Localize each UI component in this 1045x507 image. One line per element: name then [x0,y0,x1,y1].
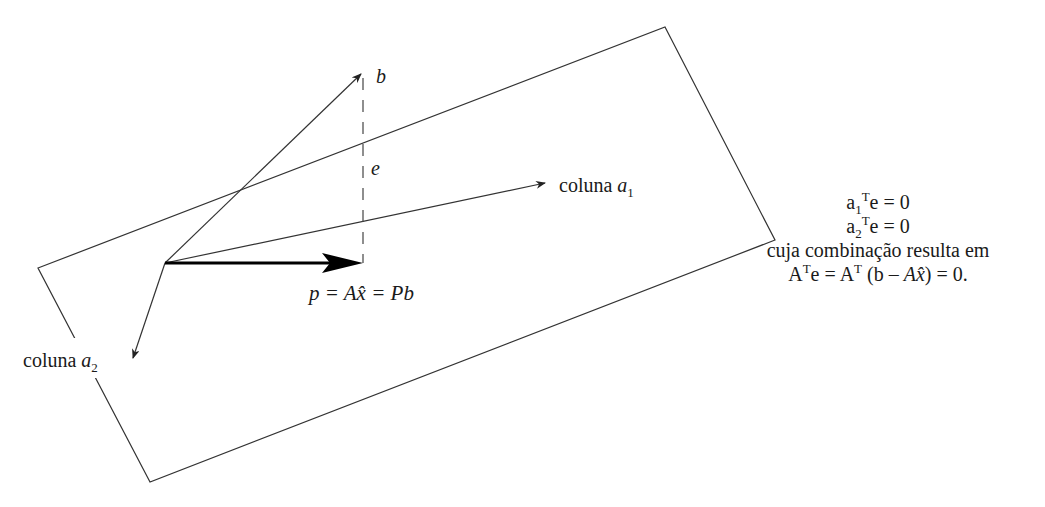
label-column-a2-var: a [81,349,91,371]
label-column-a1-sub: 1 [627,185,634,200]
eq1-sup: T [862,189,870,204]
equation-combination-text: cuja combinação resulta em [763,238,993,262]
equations-block: a1Te = 0 a2Te = 0 cuja combinação result… [763,190,993,286]
eq2-rest: e = 0 [870,215,910,237]
label-e: e [371,158,380,178]
eq2-sup: T [862,213,870,228]
eq4-paren: (b – [862,263,904,285]
label-column-a1-text: coluna [559,174,617,196]
eq2-a: a [846,215,855,237]
eq4-sup2: T [854,261,862,276]
eq4-ax: Ax̂ [904,263,925,285]
equation-normal: ATe = AT (b – Ax̂) = 0. [763,262,993,286]
label-column-a2: coluna a2 [23,350,98,370]
eq1-rest: e = 0 [870,191,910,213]
label-b: b [376,66,386,86]
label-column-a2-sub: 2 [91,360,98,375]
eq4-A: A [788,263,802,285]
equation-a2-orthogonal: a2Te = 0 [763,214,993,238]
label-column-a1-var: a [617,174,627,196]
eq4-end: ) = 0. [925,263,968,285]
column-space-plane [38,27,775,482]
eq4-mid: e = A [811,263,855,285]
vector-b [165,74,361,263]
vector-a1 [165,183,545,263]
equation-a1-orthogonal: a1Te = 0 [763,190,993,214]
label-column-a1: coluna a1 [559,175,634,195]
eq4-sup1: T [803,261,811,276]
label-column-a2-text: coluna [23,349,81,371]
eq1-a: a [846,191,855,213]
label-projection: p = Ax̂ = Pb [309,283,414,304]
